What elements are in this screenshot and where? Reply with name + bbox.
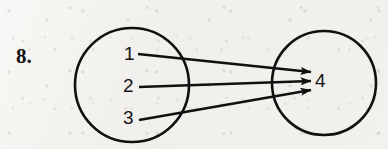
mapping-diagram-svg — [0, 0, 388, 149]
mapping-arrow-3-to-4 — [139, 90, 311, 120]
worksheet-page: 8. 1 2 3 4 — [0, 0, 388, 149]
domain-element-1-label: 1 — [124, 44, 135, 63]
domain-element-3-label: 3 — [123, 108, 134, 127]
mapping-arrow-2-to-4 — [139, 81, 311, 87]
codomain-element-4-label: 4 — [315, 71, 326, 90]
mapping-arrow-1-to-4 — [138, 54, 311, 72]
domain-element-2-label: 2 — [123, 76, 134, 95]
